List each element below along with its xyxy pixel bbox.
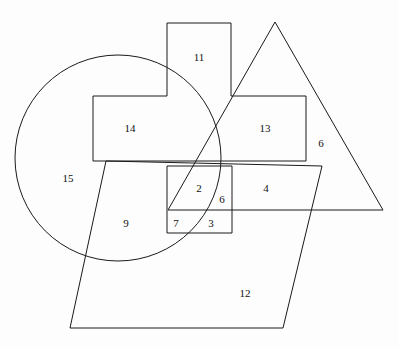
region-label-2: 2 (196, 183, 202, 194)
cross-shape (93, 23, 306, 161)
region-label-7: 7 (173, 218, 179, 229)
region-label-14: 14 (125, 123, 136, 134)
region-label-6-inner: 6 (219, 194, 225, 205)
region-label-12: 12 (240, 288, 251, 299)
region-label-11: 11 (194, 52, 205, 63)
region-label-13: 13 (260, 123, 271, 134)
circle-shape (15, 55, 221, 261)
region-label-6-right: 6 (318, 138, 324, 149)
geometric-figure: 11 14 13 6 15 2 6 4 9 7 3 12 (0, 0, 399, 349)
region-label-3: 3 (208, 218, 214, 229)
region-label-4: 4 (263, 183, 269, 194)
region-label-15: 15 (63, 173, 74, 184)
region-label-9: 9 (123, 218, 129, 229)
